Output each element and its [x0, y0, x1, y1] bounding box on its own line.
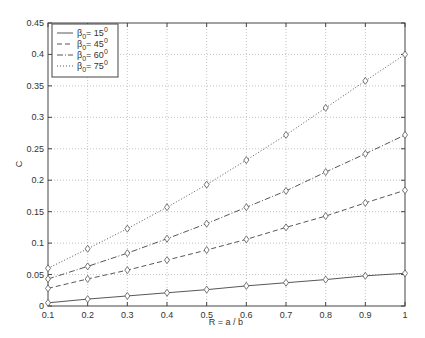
diamond-marker: [125, 267, 130, 274]
diamond-marker: [85, 245, 90, 252]
diamond-marker: [323, 169, 328, 176]
diamond-marker: [284, 131, 289, 138]
x-axis-label: R = a / b: [209, 317, 243, 327]
y-tick-label: 0.25: [26, 144, 44, 154]
diamond-marker: [323, 104, 328, 111]
diamond-marker: [204, 181, 209, 188]
diamond-marker: [403, 187, 408, 194]
y-tick-label: 0.1: [31, 238, 44, 248]
y-tick-label: 0.05: [26, 270, 44, 280]
data-series: [46, 51, 408, 306]
diamond-marker: [244, 282, 249, 289]
diamond-marker: [46, 275, 51, 282]
y-tick-label: 0.35: [26, 81, 44, 91]
diamond-marker: [125, 250, 130, 257]
diamond-marker: [403, 51, 408, 58]
diamond-marker: [46, 265, 51, 272]
x-tick-label: 0.1: [42, 310, 55, 320]
x-tick-label: 0.7: [280, 310, 293, 320]
diamond-marker: [165, 289, 170, 296]
line-chart: 0.10.20.30.40.50.60.70.80.91 00.050.10.1…: [0, 0, 425, 338]
y-tick-label: 0.45: [26, 18, 44, 28]
series-solid: [46, 270, 408, 307]
diamond-marker: [165, 235, 170, 242]
series-dashed: [46, 187, 408, 292]
x-tick-label: 0.2: [81, 310, 94, 320]
diamond-marker: [244, 157, 249, 164]
series-line: [48, 135, 405, 279]
x-tick-label: 0.9: [359, 310, 372, 320]
y-axis-label: C: [14, 160, 24, 167]
y-tick-label: 0: [39, 301, 44, 311]
diamond-marker: [46, 285, 51, 292]
diamond-marker: [363, 77, 368, 84]
diamond-marker: [403, 270, 408, 277]
series-dotted: [46, 51, 408, 272]
diamond-marker: [284, 279, 289, 286]
diamond-marker: [284, 224, 289, 231]
y-tick-label: 0.3: [31, 112, 44, 122]
diamond-marker: [363, 199, 368, 206]
diamond-marker: [323, 213, 328, 220]
diamond-marker: [85, 296, 90, 303]
diamond-marker: [165, 257, 170, 264]
diamond-marker: [204, 286, 209, 293]
y-tick-label: 0.4: [31, 49, 44, 59]
x-tick-label: 1: [402, 310, 407, 320]
diamond-marker: [165, 204, 170, 211]
series-line: [48, 190, 405, 288]
series-line: [48, 273, 405, 303]
diamond-marker: [204, 220, 209, 227]
diamond-marker: [125, 292, 130, 299]
diamond-marker: [363, 272, 368, 279]
x-tick-label: 0.4: [161, 310, 174, 320]
x-tick-label: 0.3: [121, 310, 134, 320]
diamond-marker: [403, 131, 408, 138]
diamond-marker: [125, 225, 130, 232]
y-tick-label: 0.2: [31, 175, 44, 185]
diamond-marker: [244, 236, 249, 243]
legend-label: β0= 750: [77, 59, 108, 73]
diamond-marker: [323, 276, 328, 283]
y-tick-label: 0.15: [26, 207, 44, 217]
diamond-marker: [85, 275, 90, 282]
diamond-marker: [284, 187, 289, 194]
diamond-marker: [85, 263, 90, 270]
diamond-marker: [244, 204, 249, 211]
legend: β0= 150β0= 450β0= 600β0= 750: [52, 24, 118, 77]
diamond-marker: [204, 247, 209, 254]
diamond-marker: [46, 299, 51, 306]
diamond-marker: [363, 150, 368, 157]
series-line: [48, 54, 405, 268]
x-tick-label: 0.8: [319, 310, 332, 320]
